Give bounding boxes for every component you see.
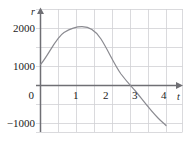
x-tick-label-4: 4: [161, 90, 167, 101]
grid-vertical-lines: [41, 9, 183, 132]
grid-horizontal-lines: [36, 10, 183, 133]
y-axis-line: [37, 8, 44, 133]
y-axis-name: r: [31, 7, 35, 17]
x-axis-name: t: [177, 92, 180, 102]
data-curve: [41, 27, 167, 126]
x-tick-label-2: 2: [103, 90, 109, 101]
x-tick-label-3: 3: [132, 90, 138, 101]
figure-container: r t 2000 1000 0 −1000 1 2 3 4: [0, 0, 193, 143]
x-tick-label-1: 1: [73, 90, 79, 101]
y-tick-label-2000: 2000: [0, 23, 35, 34]
y-tick-label-0: 0: [0, 90, 34, 101]
x-axis-line: [36, 82, 183, 89]
y-tick-label-1000: 1000: [0, 61, 35, 72]
y-tick-label-minus-1000: −1000: [0, 118, 35, 129]
